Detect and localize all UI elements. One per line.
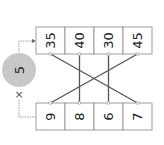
bottom-cell-1: 9 [43, 112, 58, 120]
top-cell-1: 35 [43, 32, 58, 49]
connector-top [19, 41, 33, 52]
top-cell-2: 40 [72, 32, 87, 49]
matching-diagram: 5 × 35 40 30 45 9 8 6 7 [0, 0, 164, 145]
arrow-head-icon [32, 39, 36, 43]
bottom-cell-4: 7 [130, 112, 145, 120]
top-cell-3: 30 [101, 32, 116, 49]
matching-lines [51, 54, 138, 103]
bottom-cell-3: 6 [101, 112, 116, 120]
multiplier-value: 5 [12, 66, 27, 74]
connector-bottom [19, 100, 36, 117]
multiply-sign-icon: × [14, 88, 23, 101]
bottom-cell-2: 8 [72, 112, 87, 120]
top-cell-4: 45 [130, 32, 145, 49]
